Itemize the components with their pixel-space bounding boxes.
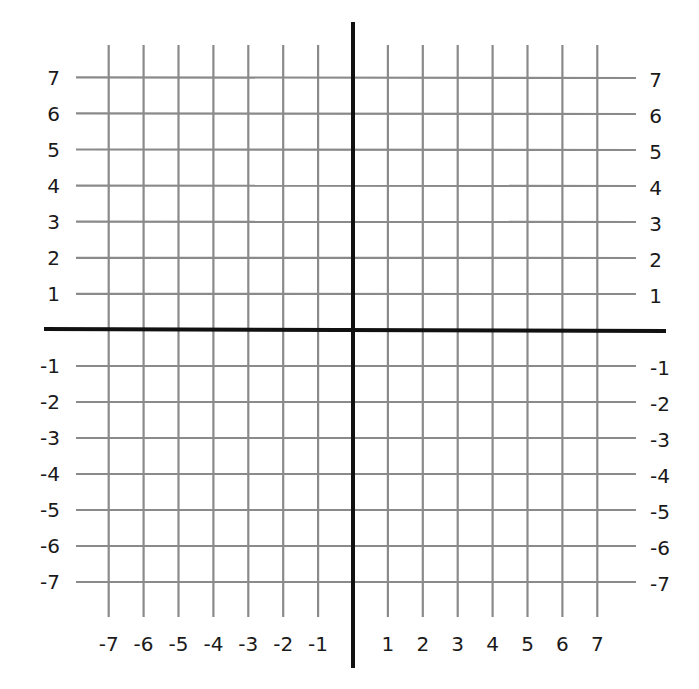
y-tick-label-left: -7 [40,570,60,594]
x-tick-label: 5 [521,632,534,656]
y-tick-label-left: 2 [47,246,60,270]
x-tick-label: 7 [591,632,604,656]
y-tick-label-right: -5 [650,500,670,524]
x-tick-label: 2 [416,632,429,656]
y-tick-label-left: -2 [40,390,60,414]
x-tick-label: -5 [169,632,189,656]
coordinate-plane: -7-6-5-4-3-2-11234567 -7-6-5-4-3-2-11234… [0,0,699,689]
gridline-y [76,77,636,78]
y-tick-label-left: 1 [47,282,60,306]
y-tick-label-left: 5 [47,138,60,162]
y-tick-label-right: 7 [649,68,662,92]
y-tick-label-right: 5 [649,140,662,164]
y-tick-label-right: -4 [650,464,670,488]
x-tick-label: -3 [238,632,258,656]
y-tick-label-left: 4 [47,174,60,198]
y-tick-label-right: 1 [649,284,662,308]
y-tick-label-left: 6 [47,102,60,126]
y-tick-label-right: -6 [650,536,670,560]
x-tick-label: -4 [203,632,223,656]
y-tick-label-right: -7 [650,572,670,596]
y-tick-label-right: 6 [649,104,662,128]
y-tick-label-right: 2 [649,248,662,272]
x-tick-label: 3 [451,632,464,656]
x-tick-label: 6 [556,632,569,656]
y-tick-label-left: -5 [40,498,60,522]
y-tick-label-left: -1 [40,354,60,378]
y-tick-label-right: -2 [650,392,670,416]
y-tick-label-right: -3 [650,428,670,452]
gridline-y [76,113,636,114]
y-tick-label-left: -3 [40,426,60,450]
x-tick-label: -6 [134,632,154,656]
x-tick-label: -7 [99,632,119,656]
x-tick-label: 4 [486,632,499,656]
y-tick-label-left: 7 [47,66,60,90]
y-tick-label-left: 3 [47,210,60,234]
y-tick-label-right: 3 [649,212,662,236]
y-tick-label-left: -6 [40,534,60,558]
y-tick-label-right: 4 [649,176,662,200]
gridline-y [76,150,636,151]
x-tick-label: -2 [273,632,293,656]
x-tick-label: -1 [308,632,328,656]
y-tick-label-right: -1 [650,356,670,380]
x-tick-label: 1 [382,632,395,656]
y-tick-label-left: -4 [40,462,60,486]
